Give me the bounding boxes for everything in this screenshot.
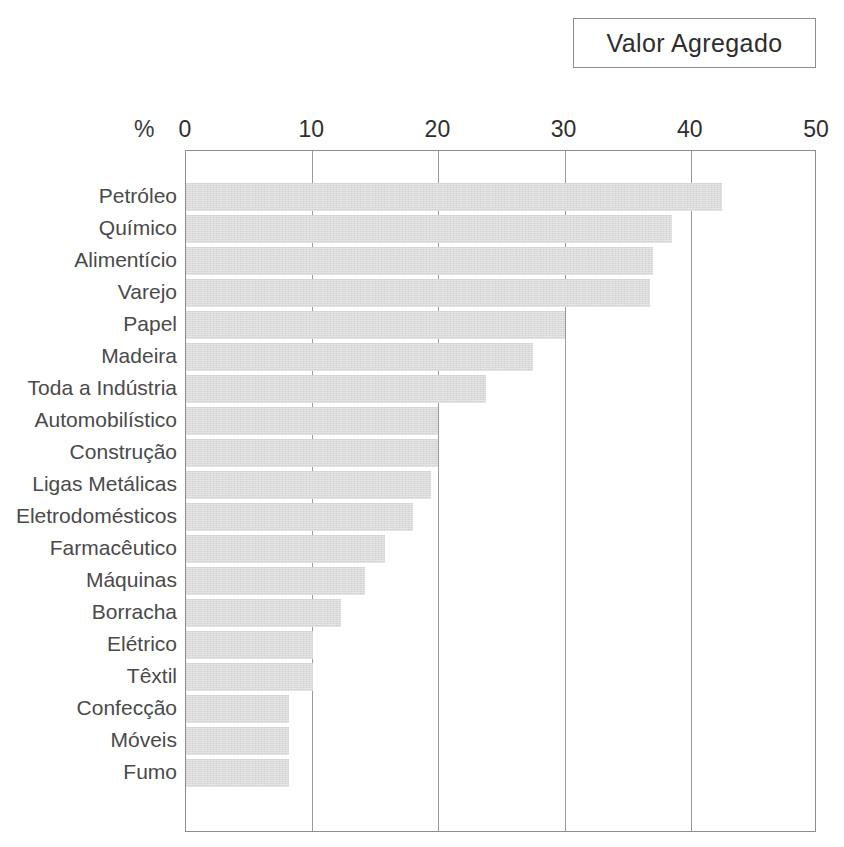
category-label: Alimentício	[0, 246, 177, 274]
bar	[186, 471, 431, 499]
bar	[186, 599, 341, 627]
bar-series	[186, 151, 815, 831]
bar	[186, 503, 413, 531]
chart-title-box: Valor Agregado	[573, 18, 816, 68]
axis-unit-label: %	[134, 116, 154, 143]
category-label: Fumo	[0, 758, 177, 786]
bar	[186, 183, 722, 211]
bar	[186, 759, 289, 787]
category-label: Químico	[0, 214, 177, 242]
bar	[186, 375, 486, 403]
category-label: Automobilístico	[0, 406, 177, 434]
bar	[186, 407, 438, 435]
x-tick-label-20: 20	[425, 116, 451, 143]
category-label: Ligas Metálicas	[0, 470, 177, 498]
bar	[186, 567, 365, 595]
x-tick-label-50: 50	[803, 116, 829, 143]
bar	[186, 695, 289, 723]
category-label: Eletrodomésticos	[0, 502, 177, 530]
bar	[186, 343, 533, 371]
category-label: Petróleo	[0, 182, 177, 210]
category-label: Construção	[0, 438, 177, 466]
bar	[186, 215, 672, 243]
bar	[186, 311, 565, 339]
bar	[186, 247, 653, 275]
x-tick-label-0: 0	[179, 116, 192, 143]
category-label: Papel	[0, 310, 177, 338]
category-label: Têxtil	[0, 662, 177, 690]
category-label: Toda a Indústria	[0, 374, 177, 402]
category-label: Borracha	[0, 598, 177, 626]
bar	[186, 631, 313, 659]
category-label: Farmacêutico	[0, 534, 177, 562]
bar	[186, 727, 289, 755]
cropped-caption	[62, 838, 662, 847]
plot-area	[185, 150, 816, 832]
category-label: Madeira	[0, 342, 177, 370]
category-label: Confecção	[0, 694, 177, 722]
category-label: Máquinas	[0, 566, 177, 594]
category-label: Móveis	[0, 726, 177, 754]
bar	[186, 663, 313, 691]
bar	[186, 279, 650, 307]
bar	[186, 535, 385, 563]
chart-title: Valor Agregado	[606, 29, 782, 58]
category-label: Elétrico	[0, 630, 177, 658]
x-tick-label-30: 30	[551, 116, 577, 143]
bar	[186, 439, 438, 467]
x-tick-label-40: 40	[677, 116, 703, 143]
x-tick-label-10: 10	[298, 116, 324, 143]
category-label: Varejo	[0, 278, 177, 306]
